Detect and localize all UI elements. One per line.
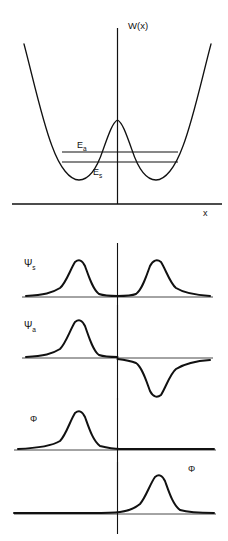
psi-a-panel — [22, 305, 213, 400]
energy-level-label-ea: Ea — [77, 140, 87, 152]
psi-a-label: Ψa — [24, 320, 36, 333]
energy-level-ea-subscript: a — [83, 145, 87, 152]
phi-left-panel — [14, 398, 216, 490]
psi-a-negative-lobe — [118, 359, 211, 397]
phi-left-wavefunction-curve — [18, 411, 214, 449]
energy-level-es-subscript: s — [99, 172, 102, 179]
phi-right-wavefunction-curve — [14, 475, 214, 513]
potential-x-axis-label: x — [203, 208, 208, 218]
phi-right-panel — [14, 462, 216, 534]
psi-a-subscript: a — [32, 326, 36, 333]
psi-s-label: Ψs — [24, 258, 36, 271]
psi-s-subscript: s — [32, 264, 35, 271]
physics-figure: W(x) x Ea Es Ψs Ψa Φ Φ — [0, 0, 228, 541]
potential-y-axis-label: W(x) — [128, 20, 148, 31]
energy-level-label-es: Es — [93, 167, 102, 179]
psi-a-positive-lobe — [26, 320, 118, 357]
potential-panel — [12, 28, 222, 204]
phi-left-label: Φ — [30, 414, 37, 424]
phi-right-label: Φ — [188, 464, 195, 474]
